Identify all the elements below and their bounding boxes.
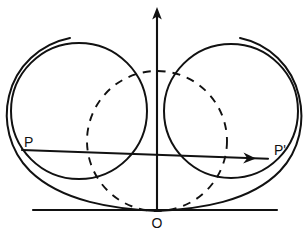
geometry-figure: P P' O	[0, 0, 307, 230]
ray-p-to-p-prime	[22, 150, 268, 159]
left-circle	[11, 43, 147, 179]
label-origin: O	[152, 215, 163, 230]
geometry-canvas: P P' O	[0, 0, 307, 230]
label-p-prime: P'	[274, 142, 286, 158]
label-p: P	[24, 134, 33, 150]
